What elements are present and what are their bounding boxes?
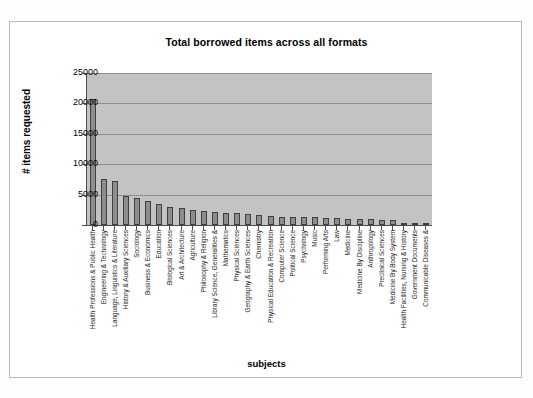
bar: [234, 213, 240, 225]
x-axis-label-slot: Agriculture: [186, 230, 197, 356]
bar-slot: [132, 73, 143, 225]
bar: [179, 208, 185, 225]
x-axis-category-label: Computer Science: [277, 230, 284, 283]
x-axis-category-label: Medicine By Body System: [388, 230, 395, 304]
y-axis-tick-mark: [82, 103, 86, 104]
x-axis-label-slot: Art & Architecture: [175, 230, 186, 356]
x-axis-category-label: Education: [155, 230, 162, 258]
bar: [167, 207, 173, 225]
chart-screenshot: Total borrowed items across all formats …: [0, 0, 533, 398]
y-axis-tick-label: 25000: [38, 67, 98, 77]
bar: [423, 223, 429, 225]
bar-slot: [399, 73, 410, 225]
bar: [312, 217, 318, 225]
x-axis-category-label: Medicine: [344, 230, 351, 256]
bar-slot: [265, 73, 276, 225]
bar: [201, 211, 207, 225]
x-axis-label-slot: Medicine By Discipline: [353, 230, 364, 356]
bar-slot: [276, 73, 287, 225]
x-axis-category-label: Library Science, Generalities &: [210, 230, 217, 318]
bar-slot: [120, 73, 131, 225]
x-axis-label-slot: Business & Economics: [142, 230, 153, 356]
bar: [268, 216, 274, 225]
x-axis-category-label: Geography & Earth Sciences: [244, 230, 251, 312]
bar-slot: [109, 73, 120, 225]
bar: [390, 220, 396, 225]
bar-slot: [321, 73, 332, 225]
x-axis-label-slot: Anthropology: [364, 230, 375, 356]
bar: [334, 218, 340, 225]
x-axis-category-label: Law: [333, 230, 340, 242]
x-axis-label-slot: Biological Sciences: [164, 230, 175, 356]
bar-slot: [209, 73, 220, 225]
x-axis-category-label: Physical Sciences: [233, 230, 240, 282]
y-axis-tick-label: 20000: [38, 97, 98, 107]
x-axis-label-slot: Mathematics: [220, 230, 231, 356]
x-axis-label-slot: Education: [153, 230, 164, 356]
x-axis-label-slot: Philosophy & Religion: [197, 230, 208, 356]
y-axis-tick-mark: [82, 164, 86, 165]
x-axis-category-label: Health Professions & Public Health: [88, 230, 95, 329]
bar: [279, 217, 285, 226]
bar: [123, 196, 129, 225]
y-axis-title: # items requested: [21, 72, 32, 192]
bar-slot: [343, 73, 354, 225]
x-axis-label-slot: Health Professions & Public Health: [86, 230, 97, 356]
bar-slot: [410, 73, 421, 225]
bar: [145, 201, 151, 225]
y-axis-tick-label: 5000: [38, 189, 98, 199]
x-axis-title: subjects: [10, 358, 523, 369]
bar-slot: [354, 73, 365, 225]
x-axis-label-slot: Chemistry: [253, 230, 264, 356]
bar: [190, 210, 196, 225]
bar: [112, 181, 118, 225]
x-axis-category-label: Language, Linguistics & Literature: [110, 230, 117, 327]
bar-slot: [254, 73, 265, 225]
x-axis-label-slot: Library Science, Generalities &: [208, 230, 219, 356]
bar: [301, 217, 307, 225]
x-axis-label-slot: Physical Education & Recreation: [264, 230, 275, 356]
x-axis-category-label: Psychology: [299, 230, 306, 263]
x-axis-category-label: Art & Architecture: [177, 230, 184, 280]
x-axis-category-label: Engineering & Technology: [99, 230, 106, 304]
bar: [357, 219, 363, 225]
x-axis-category-label: History & Auxiliary Sciences: [121, 230, 128, 309]
bar-series: [87, 73, 432, 225]
x-axis-label-slot: Government Documents: [409, 230, 420, 356]
x-axis-category-label: Biological Sciences: [166, 230, 173, 285]
x-axis-category-label: Government Documents: [411, 230, 418, 299]
bar: [101, 179, 107, 225]
y-axis-tick-mark: [82, 225, 86, 226]
x-axis-label-slot: History & Auxiliary Sciences: [119, 230, 130, 356]
x-axis-category-label: Physical Education & Recreation: [266, 230, 273, 323]
bar-slot: [198, 73, 209, 225]
x-axis-label-slot: Medicine By Body System: [386, 230, 397, 356]
bar-slot: [143, 73, 154, 225]
bar: [245, 214, 251, 225]
x-axis-category-label: Performing Arts: [322, 230, 329, 274]
bar: [256, 215, 262, 225]
x-axis-label-slot: Health Facilities, Nursing & History: [398, 230, 409, 356]
x-axis-label-slot: Psychology: [297, 230, 308, 356]
bar-slot: [154, 73, 165, 225]
x-axis-label-slot: Preclinical Sciences: [375, 230, 386, 356]
bar-slot: [287, 73, 298, 225]
bar: [134, 198, 140, 225]
x-axis-category-label: Health Facilities, Nursing & History: [400, 230, 407, 328]
x-axis-label-slot: Language, Linguistics & Literature: [108, 230, 119, 356]
x-axis-label-slot: Communicable Diseases &: [420, 230, 431, 356]
bar: [290, 217, 296, 225]
bar-slot: [387, 73, 398, 225]
x-axis-category-label: Political Science: [288, 230, 295, 277]
bar-slot: [365, 73, 376, 225]
bar: [379, 220, 385, 225]
x-axis-category-label: Chemistry: [255, 230, 262, 259]
y-axis-tick-label: 10000: [38, 158, 98, 168]
bar: [223, 213, 229, 225]
bar-slot: [243, 73, 254, 225]
x-axis-label-slot: Performing Arts: [320, 230, 331, 356]
x-axis-label-slot: Music: [309, 230, 320, 356]
bar-slot: [165, 73, 176, 225]
x-axis-category-label: Philosophy & Religion: [199, 230, 206, 292]
bar-slot: [310, 73, 321, 225]
